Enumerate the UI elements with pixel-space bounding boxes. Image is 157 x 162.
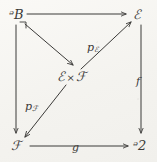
edge-p-to-exf — [25, 24, 73, 65]
node-exf-left-label: ℰ — [57, 69, 65, 84]
node-p-label: ᵊB — [9, 7, 24, 22]
commutative-diagram: ᵊB ℰ ℰ×ℱ ℱ ᵊ2 pℰ pℱ f g — [0, 0, 157, 162]
node-e: ℰ — [133, 8, 141, 21]
edge-label-f: f — [136, 76, 140, 87]
pullback-corner-marker — [20, 22, 26, 28]
p-f-base: p — [25, 100, 32, 113]
node-e-times-f: ℰ×ℱ — [57, 70, 86, 83]
node-g: ᵊ2 — [133, 139, 146, 152]
edge-label-projection-f: pℱ — [25, 101, 38, 113]
node-g-label: ᵊ2 — [133, 138, 146, 153]
times-symbol: × — [65, 72, 76, 83]
p-e-subscript: ℰ — [94, 45, 99, 54]
p-f-subscript: ℱ — [32, 104, 38, 113]
edge-label-g: g — [72, 142, 79, 153]
node-exf-right-label: ℱ — [76, 69, 86, 84]
p-e-base: p — [87, 41, 94, 54]
node-p: ᵊB — [9, 8, 24, 21]
node-f-label: ℱ — [11, 138, 21, 153]
node-e-label: ℰ — [133, 7, 141, 22]
edge-label-projection-e: pℰ — [87, 42, 99, 54]
node-f: ℱ — [11, 139, 21, 152]
